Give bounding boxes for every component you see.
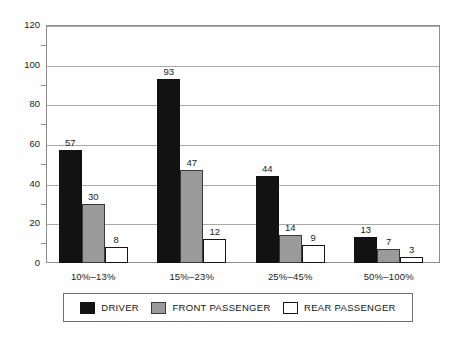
legend-item-rear-passenger: REAR PASSENGER bbox=[283, 302, 396, 314]
legend-label-driver: DRIVER bbox=[101, 302, 139, 313]
bar-chart: 020406080100120 57308934712441491373 10%… bbox=[0, 0, 460, 337]
bar-driver-3 bbox=[354, 237, 377, 263]
bar-value-label: 47 bbox=[180, 157, 203, 168]
bar-rear-3 bbox=[400, 257, 423, 263]
bar-rear-1 bbox=[203, 239, 226, 263]
chart-legend: DRIVER FRONT PASSENGER REAR PASSENGER bbox=[63, 293, 413, 322]
y-axis-tick-label: 20 bbox=[4, 217, 40, 228]
bar-value-label: 3 bbox=[400, 244, 423, 255]
bar-value-label: 13 bbox=[354, 224, 377, 235]
bars-layer: 57308934712441491373 bbox=[46, 25, 440, 263]
y-axis-tick-label: 60 bbox=[4, 138, 40, 149]
bar-driver-2 bbox=[256, 176, 279, 263]
bar-rear-0 bbox=[105, 247, 128, 263]
bar-value-label: 44 bbox=[256, 163, 279, 174]
legend-swatch-rear-passenger-icon bbox=[283, 302, 298, 314]
x-axis-category-label: 15%–23% bbox=[147, 271, 237, 282]
bar-front-3 bbox=[377, 249, 400, 263]
bar-value-label: 8 bbox=[105, 234, 128, 245]
bar-value-label: 93 bbox=[157, 66, 180, 77]
bar-value-label: 7 bbox=[377, 236, 400, 247]
legend-label-front-passenger: FRONT PASSENGER bbox=[172, 302, 270, 313]
x-axis-category-label: 10%–13% bbox=[48, 271, 138, 282]
y-axis-tick-label: 80 bbox=[4, 98, 40, 109]
bar-value-label: 57 bbox=[59, 137, 82, 148]
bar-front-1 bbox=[180, 170, 203, 263]
bar-driver-1 bbox=[157, 79, 180, 263]
bar-value-label: 9 bbox=[302, 232, 325, 243]
bar-driver-0 bbox=[59, 150, 82, 263]
bar-rear-2 bbox=[302, 245, 325, 263]
bar-front-2 bbox=[279, 235, 302, 263]
y-axis-tick-label: 40 bbox=[4, 178, 40, 189]
y-axis-tick-label: 0 bbox=[4, 257, 40, 268]
legend-label-rear-passenger: REAR PASSENGER bbox=[304, 302, 396, 313]
bar-value-label: 30 bbox=[82, 191, 105, 202]
bar-front-0 bbox=[82, 204, 105, 264]
legend-swatch-front-passenger-icon bbox=[151, 302, 166, 314]
x-axis-category-label: 25%–45% bbox=[245, 271, 335, 282]
legend-item-front-passenger: FRONT PASSENGER bbox=[151, 302, 270, 314]
y-axis-tick-label: 100 bbox=[4, 59, 40, 70]
bar-value-label: 12 bbox=[203, 226, 226, 237]
x-axis-category-label: 50%–100% bbox=[344, 271, 434, 282]
bar-value-label: 14 bbox=[279, 222, 302, 233]
legend-item-driver: DRIVER bbox=[80, 302, 139, 314]
legend-swatch-driver-icon bbox=[80, 302, 95, 314]
y-axis-tick-label: 120 bbox=[4, 19, 40, 30]
